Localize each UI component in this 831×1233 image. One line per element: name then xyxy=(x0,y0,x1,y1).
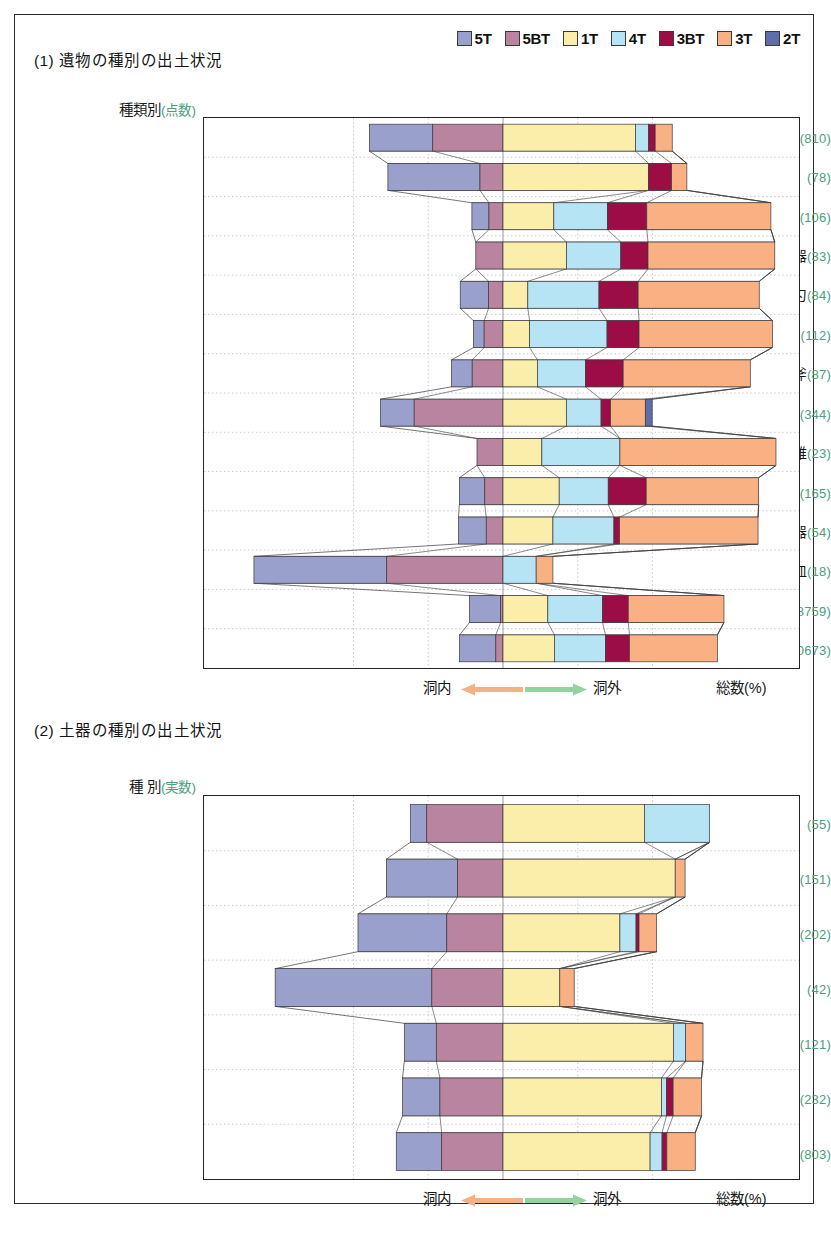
section2-column-header-unit: (実数) xyxy=(161,780,196,795)
legend-label: 3BT xyxy=(677,30,704,47)
row-label-count: (151) xyxy=(800,872,831,887)
legend-swatch-3t-icon xyxy=(717,31,732,46)
ax1-arrow-svg xyxy=(461,683,587,696)
row-label-count: (78) xyxy=(807,170,831,185)
section1-column-header: 種類別(点数) xyxy=(0,98,196,119)
section2-axis-left-label: 洞内 xyxy=(423,1187,451,1208)
ax2-arrow-svg xyxy=(461,1194,587,1207)
legend-item-3T[interactable]: 3T xyxy=(717,30,752,47)
legend-swatch-5t-icon xyxy=(457,31,472,46)
row-label-count: (33) xyxy=(807,249,831,264)
chart-legend: 5T5BT1T4T3BT3T2T xyxy=(200,26,800,50)
section1-svg xyxy=(204,118,799,668)
row-label-count: (803) xyxy=(800,1147,831,1162)
section2-plot-area xyxy=(203,795,800,1180)
legend-swatch-2t-icon xyxy=(765,31,780,46)
section2-column-header: 種 別(実数) xyxy=(0,775,196,796)
row-label-count: (55) xyxy=(807,817,831,832)
legend-label: 2T xyxy=(783,30,800,47)
legend-item-5BT[interactable]: 5BT xyxy=(505,30,550,47)
section2-axis-total-label: 総数(%) xyxy=(716,1187,767,1208)
row-label-count: (87) xyxy=(807,367,831,382)
row-label-count: (18) xyxy=(807,564,831,579)
left-arrow-icon xyxy=(461,684,523,696)
section2-axis-right-label: 洞外 xyxy=(593,1187,621,1208)
legend-item-4T[interactable]: 4T xyxy=(611,30,646,47)
right-arrow-icon xyxy=(525,684,587,696)
section1-plot-area xyxy=(203,117,800,669)
row-label-count: (165) xyxy=(800,486,831,501)
row-label-count: (232) xyxy=(800,1092,831,1107)
section1-axis-left-label: 洞内 xyxy=(423,676,451,697)
legend-item-5T[interactable]: 5T xyxy=(457,30,492,47)
legend-swatch-1t-icon xyxy=(563,31,578,46)
row-label-count: (112) xyxy=(801,328,831,343)
legend-label: 4T xyxy=(629,30,646,47)
legend-swatch-3bt-icon xyxy=(659,31,674,46)
left-arrow-icon xyxy=(461,1195,523,1207)
section2-svg xyxy=(204,796,799,1179)
section1-column-header-text: 種類別 xyxy=(119,102,161,118)
row-label-count: (106) xyxy=(800,210,831,225)
legend-item-2T[interactable]: 2T xyxy=(765,30,800,47)
row-label-count: (23) xyxy=(807,446,831,461)
row-label-count: (344) xyxy=(800,407,831,422)
legend-swatch-4t-icon xyxy=(611,31,626,46)
row-label-count: (42) xyxy=(807,982,831,997)
section2-column-header-text: 種 別 xyxy=(129,779,161,795)
section2-title: (2) 土器の種別の出土状況 xyxy=(34,718,223,740)
section1-axis-right-label: 洞外 xyxy=(593,676,621,697)
section1-axis-arrows xyxy=(461,682,587,695)
right-arrow-icon xyxy=(525,1195,587,1207)
legend-item-1T[interactable]: 1T xyxy=(563,30,598,47)
legend-swatch-5bt-icon xyxy=(505,31,520,46)
row-label-count: (84) xyxy=(807,288,831,303)
legend-item-3BT[interactable]: 3BT xyxy=(659,30,704,47)
row-label-count: (810) xyxy=(800,131,831,146)
legend-label: 3T xyxy=(735,30,752,47)
legend-label: 5T xyxy=(475,30,492,47)
row-label-count: (202) xyxy=(800,927,831,942)
legend-label: 1T xyxy=(581,30,598,47)
row-label-count: (54) xyxy=(807,525,831,540)
section1-title: (1) 遺物の種別の出土状況 xyxy=(34,48,223,70)
section2-axis-arrows xyxy=(461,1193,587,1206)
section1-axis-total-label: 総数(%) xyxy=(716,676,767,697)
legend-label: 5BT xyxy=(523,30,550,47)
row-label-count: (121) xyxy=(800,1037,831,1052)
section1-column-header-unit: (点数) xyxy=(161,103,196,118)
